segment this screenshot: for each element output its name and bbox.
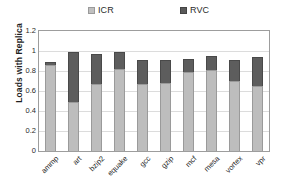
bar-column xyxy=(252,31,263,151)
bar-column xyxy=(229,31,240,151)
bar-segment-rvc xyxy=(91,54,102,84)
bar-stack xyxy=(160,60,171,151)
bar-stack xyxy=(183,59,194,151)
y-tick-label: 1.2 xyxy=(2,27,36,35)
y-tick-label: 0 xyxy=(2,147,36,155)
legend-label-rvc: RVC xyxy=(190,5,209,15)
y-tick-label: 0.8 xyxy=(2,67,36,75)
bar-segment-icr xyxy=(183,72,194,151)
legend-swatch-icon-icr xyxy=(88,7,95,14)
bar-segment-icr xyxy=(137,84,148,151)
bar-segment-rvc xyxy=(206,56,217,70)
bar-segment-icr xyxy=(91,84,102,151)
bar-segment-icr xyxy=(45,65,56,151)
bar-series-container xyxy=(39,31,269,151)
legend-swatch-icon-rvc xyxy=(180,7,187,14)
bar-stack xyxy=(229,60,240,151)
bar-column xyxy=(183,31,194,151)
bar-stack xyxy=(68,52,79,151)
bar-segment-rvc xyxy=(137,60,148,84)
legend-label-icr: ICR xyxy=(98,5,114,15)
bar-segment-rvc xyxy=(229,60,240,81)
bar-segment-icr xyxy=(229,81,240,151)
bar-segment-icr xyxy=(160,83,171,151)
bar-column xyxy=(68,31,79,151)
bar-column xyxy=(137,31,148,151)
bar-segment-rvc xyxy=(114,52,125,69)
bar-column xyxy=(45,31,56,151)
stacked-bar-chart: ICR RVC Loads with Replica 00.20.40.60.8… xyxy=(0,0,287,187)
y-tick-label: 0.2 xyxy=(2,127,36,135)
bar-stack xyxy=(206,56,217,151)
legend-item-icr: ICR xyxy=(88,4,114,16)
bar-stack xyxy=(91,54,102,151)
bar-column xyxy=(160,31,171,151)
y-tick-label: 0.4 xyxy=(2,107,36,115)
bar-stack xyxy=(114,52,125,151)
bar-stack xyxy=(45,62,56,151)
bar-segment-icr xyxy=(68,102,79,151)
bar-column xyxy=(114,31,125,151)
bar-segment-rvc xyxy=(252,57,263,86)
bar-stack xyxy=(137,60,148,151)
bar-segment-icr xyxy=(252,86,263,151)
y-tick-label: 0.6 xyxy=(2,87,36,95)
bar-segment-rvc xyxy=(68,52,79,102)
bar-segment-rvc xyxy=(160,60,171,83)
x-axis-tick-labels: ammpartbzip2equakegccgzipmcfmesavortexvp… xyxy=(39,152,269,187)
bar-segment-rvc xyxy=(183,59,194,72)
bar-column xyxy=(206,31,217,151)
legend-item-rvc: RVC xyxy=(180,4,209,16)
y-axis-tick-labels: 00.20.40.60.811.2 xyxy=(0,30,36,152)
chart-legend: ICR RVC xyxy=(0,4,287,18)
bar-segment-icr xyxy=(114,69,125,151)
bar-segment-icr xyxy=(206,70,217,151)
bar-column xyxy=(91,31,102,151)
y-tick-label: 1 xyxy=(2,47,36,55)
bar-stack xyxy=(252,57,263,151)
